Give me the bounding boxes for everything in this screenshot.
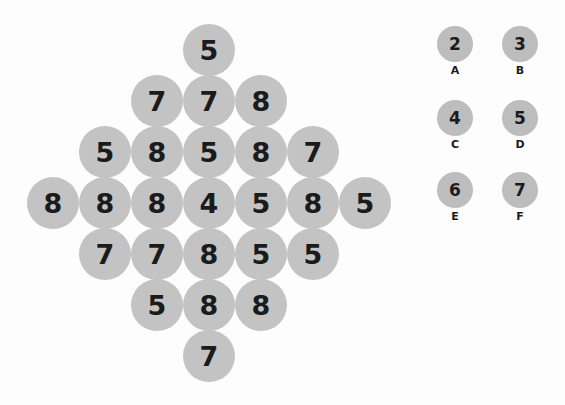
number-circle: 7 <box>183 330 235 382</box>
option-label-c: C <box>437 138 473 151</box>
number-circle: 5 <box>287 228 339 280</box>
number-circle: 7 <box>131 228 183 280</box>
number-circle: 5 <box>235 177 287 229</box>
option-label-f: F <box>502 210 538 223</box>
option-circle-a[interactable]: 2 <box>437 26 473 62</box>
option-circle-d[interactable]: 5 <box>502 100 538 136</box>
number-circle: 8 <box>235 279 287 331</box>
number-circle: 5 <box>235 228 287 280</box>
number-circle: 5 <box>131 279 183 331</box>
number-circle: 8 <box>79 177 131 229</box>
number-circle: 8 <box>131 126 183 178</box>
option-circle-e[interactable]: 6 <box>437 172 473 208</box>
number-circle: 7 <box>183 75 235 127</box>
number-circle: 7 <box>287 126 339 178</box>
number-circle: 5 <box>183 24 235 76</box>
number-circle: 8 <box>131 177 183 229</box>
number-circle: 8 <box>235 75 287 127</box>
number-circle: 5 <box>339 177 391 229</box>
option-circle-f[interactable]: 7 <box>502 172 538 208</box>
option-label-d: D <box>502 138 538 151</box>
option-label-b: B <box>502 64 538 77</box>
option-circle-c[interactable]: 4 <box>437 100 473 136</box>
number-circle: 5 <box>183 126 235 178</box>
number-circle: 8 <box>287 177 339 229</box>
number-circle: 8 <box>235 126 287 178</box>
number-circle: 8 <box>27 177 79 229</box>
option-label-a: A <box>437 64 473 77</box>
number-circle: 7 <box>79 228 131 280</box>
number-circle: 7 <box>131 75 183 127</box>
option-circle-b[interactable]: 3 <box>502 26 538 62</box>
number-circle: 5 <box>79 126 131 178</box>
number-circle: 4 <box>183 177 235 229</box>
number-circle: 8 <box>183 279 235 331</box>
number-circle: 8 <box>183 228 235 280</box>
option-label-e: E <box>437 210 473 223</box>
